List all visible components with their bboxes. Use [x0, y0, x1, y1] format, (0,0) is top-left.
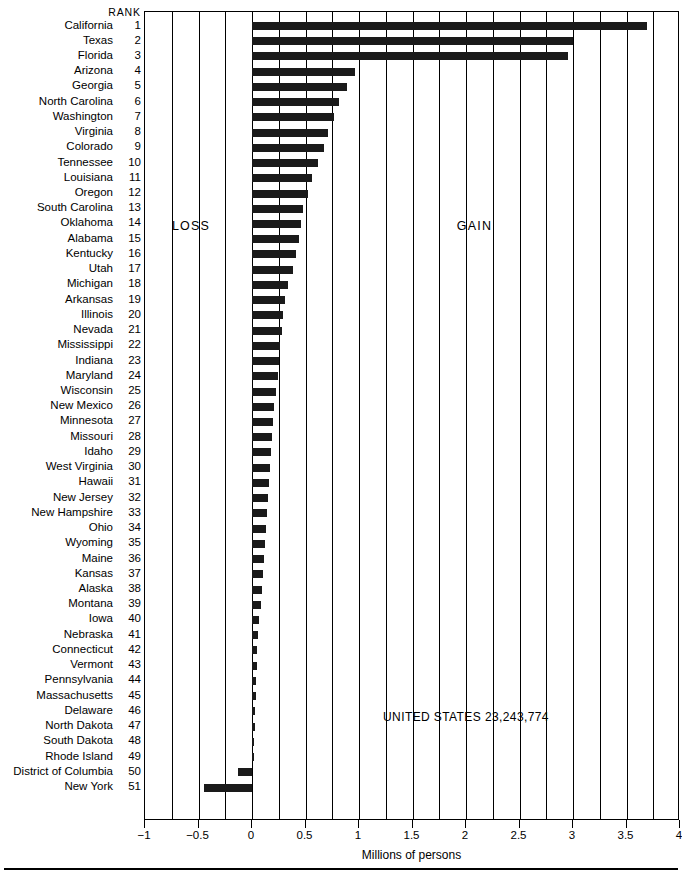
bar	[252, 113, 334, 121]
bar	[252, 677, 256, 685]
state-rank: 46	[113, 703, 141, 718]
state-rank-label: Massachusetts45	[36, 688, 141, 703]
state-rank-label: Florida3	[78, 48, 141, 63]
state-rank-label: Rhode Island49	[45, 749, 141, 764]
gridline	[439, 12, 440, 819]
bar	[252, 250, 296, 258]
axis-tick-label: 1	[355, 829, 361, 841]
bar	[252, 144, 324, 152]
population-change-bar-chart: RANK California1Texas2Florida3Arizona4Ge…	[0, 0, 682, 878]
state-name: New Jersey	[53, 490, 113, 505]
axis-tick	[198, 820, 199, 828]
bar	[252, 174, 312, 182]
gridline	[199, 12, 200, 819]
state-rank: 23	[113, 353, 141, 368]
state-rank-label: Minnesota27	[60, 413, 141, 428]
bar	[252, 220, 301, 228]
state-rank-label: Washington7	[53, 109, 141, 124]
state-rank: 51	[113, 779, 141, 794]
state-rank-label: Arizona4	[74, 63, 141, 78]
state-rank-label: Wisconsin25	[61, 383, 141, 398]
state-name: Montana	[68, 596, 113, 611]
state-rank-label: Maryland24	[66, 368, 141, 383]
state-rank: 47	[113, 718, 141, 733]
axis-tick-label: 4	[676, 829, 682, 841]
state-rank: 1	[113, 18, 141, 33]
state-rank-label: South Dakota48	[43, 733, 141, 748]
state-name: Vermont	[70, 657, 113, 672]
state-name: Nebraska	[64, 627, 113, 642]
state-name: Texas	[83, 33, 113, 48]
axis-tick-label: 0.5	[297, 829, 313, 841]
gridline	[573, 12, 574, 819]
state-rank: 29	[113, 444, 141, 459]
state-rank: 49	[113, 749, 141, 764]
state-name: Arkansas	[65, 292, 113, 307]
state-rank-label: Oklahoma14	[61, 215, 141, 230]
state-rank-label: Pennsylvania44	[45, 672, 141, 687]
state-rank-label: California1	[64, 18, 141, 33]
bar	[252, 37, 573, 45]
state-rank-label: Hawaii31	[78, 474, 141, 489]
bar	[252, 494, 268, 502]
bar	[252, 357, 279, 365]
state-rank: 44	[113, 672, 141, 687]
state-name: New York	[64, 779, 113, 794]
state-name: Alabama	[68, 231, 113, 246]
bar	[252, 190, 308, 198]
bar	[252, 448, 271, 456]
state-name: North Carolina	[39, 94, 113, 109]
bar	[252, 205, 303, 213]
state-name: Illinois	[81, 307, 113, 322]
gridline	[386, 12, 387, 819]
state-rank: 9	[113, 139, 141, 154]
axis-tick-label: 3.5	[618, 829, 634, 841]
gain-label: GAIN	[457, 219, 492, 233]
bar	[238, 768, 252, 776]
axis-tick-label: 0	[248, 829, 254, 841]
gridline	[225, 12, 226, 819]
gridline	[172, 12, 173, 819]
state-rank-label: Nebraska41	[64, 627, 141, 642]
state-name: Pennsylvania	[45, 672, 113, 687]
bar	[252, 418, 273, 426]
state-rank: 17	[113, 261, 141, 276]
state-name: Washington	[53, 109, 113, 124]
gridline	[520, 12, 521, 819]
state-rank: 48	[113, 733, 141, 748]
axis-tick	[144, 820, 145, 828]
bar	[252, 707, 255, 715]
state-rank-label: Nevada21	[73, 322, 141, 337]
state-rank-label: Kansas37	[75, 566, 141, 581]
axis-tick	[358, 820, 359, 828]
state-rank: 35	[113, 535, 141, 550]
state-rank-label: Tennessee10	[57, 155, 141, 170]
bar	[204, 784, 252, 792]
state-rank-label: New Mexico26	[50, 398, 141, 413]
state-rank: 50	[113, 764, 141, 779]
state-rank: 7	[113, 109, 141, 124]
bar	[252, 631, 258, 639]
state-rank-label: Indiana23	[75, 353, 141, 368]
state-name: South Carolina	[37, 200, 113, 215]
bar	[252, 129, 328, 137]
bar	[252, 464, 270, 472]
state-rank-label: Alaska38	[78, 581, 141, 596]
axis-tick	[572, 820, 573, 828]
state-label-column: RANK California1Texas2Florida3Arizona4Ge…	[0, 0, 144, 820]
state-rank-label: North Dakota47	[45, 718, 141, 733]
axis-tick	[679, 820, 680, 828]
state-rank-label: South Carolina13	[37, 200, 141, 215]
state-rank: 13	[113, 200, 141, 215]
state-name: Minnesota	[60, 413, 113, 428]
bar	[252, 327, 282, 335]
state-name: Georgia	[72, 78, 113, 93]
state-rank-label: Oregon12	[75, 185, 141, 200]
state-rank: 45	[113, 688, 141, 703]
state-rank-label: Mississippi22	[57, 337, 141, 352]
state-rank: 26	[113, 398, 141, 413]
state-rank: 39	[113, 596, 141, 611]
state-name: Maryland	[66, 368, 113, 383]
state-rank: 31	[113, 474, 141, 489]
bar	[252, 22, 647, 30]
